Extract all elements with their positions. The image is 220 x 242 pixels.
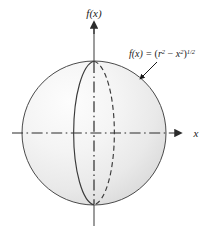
leader-arrow-icon	[140, 62, 157, 79]
sphere-solid-of-revolution-figure: x f(x) f(x)=(r2−x2)1/2	[0, 0, 220, 242]
x-axis-label: x	[193, 127, 199, 139]
equation-fx: f(x)	[129, 48, 144, 60]
y-axis-label: f(x)	[86, 7, 102, 20]
equation-label: f(x)=(r2−x2)1/2	[129, 48, 196, 60]
equation-equals: =	[146, 48, 152, 59]
equation-annotation: f(x)=(r2−x2)1/2	[129, 48, 196, 79]
equation-outer-exponent: 1/2	[187, 48, 196, 55]
equation-r-exponent: 2	[162, 48, 166, 55]
equation-minus: −	[168, 48, 174, 59]
